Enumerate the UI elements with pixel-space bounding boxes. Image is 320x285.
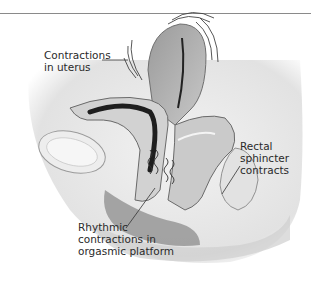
label-contractions-in-uterus: Contractions in uterus [44,49,111,73]
label-rectal-sphincter: Rectal sphincter contracts [240,140,289,176]
label-orgasmic-platform: Rhythmic contractions in orgasmic platfo… [78,221,174,257]
